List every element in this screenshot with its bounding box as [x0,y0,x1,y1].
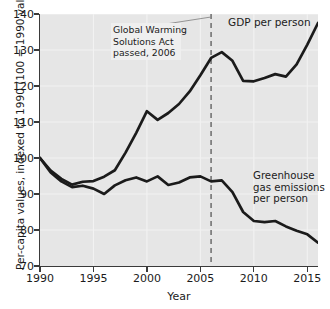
x-tick-label: 2015 [293,272,321,285]
y-tick-mark [34,229,39,230]
x-tick-label: 1995 [79,272,107,285]
y-axis-line [39,14,40,267]
series-label-gdp: GDP per person [228,16,311,28]
event-annotation-label: Global Warming Solutions Act passed, 200… [111,23,181,60]
x-tick-label: 2005 [186,272,214,285]
x-axis-line [39,266,318,267]
series-label-greenhouse-gas: Greenhouse gas emissions per person [253,170,325,205]
y-tick-mark [34,85,39,86]
y-tick-mark [34,265,39,266]
x-tick-label: 2010 [240,272,268,285]
x-tick-label: 1990 [26,272,54,285]
annotation-line-2: Solutions Act [113,36,179,48]
y-tick-mark [34,13,39,14]
x-tick-label: 2000 [133,272,161,285]
y-tick-mark [34,157,39,158]
y-tick-mark [34,193,39,194]
annotation-line-3: passed, 2006 [113,47,179,59]
chart-figure: 708090100110120130140 199019952000200520… [0,0,330,309]
y-axis-title: Per-capita values, indexed to 1990 (100 … [14,22,26,270]
y-tick-mark [34,121,39,122]
annotation-line-1: Global Warming [113,24,179,36]
ghg-label-line-3: per person [253,193,325,205]
x-axis-title: Year [40,290,318,303]
ghg-label-line-2: gas emissions [253,182,325,194]
y-tick-mark [34,49,39,50]
ghg-label-line-1: Greenhouse [253,170,325,182]
